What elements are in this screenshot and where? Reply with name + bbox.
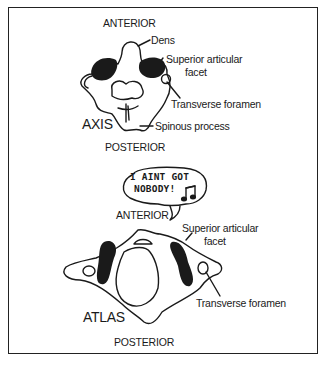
axis-transverse-foramen-label: Transverse foramen <box>171 98 261 110</box>
atlas-left-facet <box>97 241 116 284</box>
axis-superior-articular-facet-label-line2: facet <box>185 66 207 78</box>
atlas-right-facet <box>170 242 193 286</box>
axis-right-facet <box>139 58 165 79</box>
atlas-superior-articular-facet-label-line2: facet <box>204 235 226 247</box>
atlas-anterior-label: ANTERIOR <box>116 209 169 221</box>
atlas-posterior-label: POSTERIOR <box>114 336 174 348</box>
atlas-title: ATLAS <box>83 311 125 323</box>
axis-posterior-label: POSTERIOR <box>105 141 165 153</box>
atlas-superior-articular-facet-label-line1: Superior articular <box>182 222 258 234</box>
speech-bubble-line1: I AINT GOT <box>130 171 189 183</box>
speech-bubble-line2: NOBODY! <box>134 183 175 195</box>
axis-title: AXIS <box>82 118 113 130</box>
axis-dens-label: Dens <box>151 34 175 46</box>
axis-anterior-label: ANTERIOR <box>103 17 156 29</box>
axis-superior-articular-facet-label-line1: Superior articular <box>166 53 242 65</box>
axis-left-facet <box>91 58 117 80</box>
atlas-transverse-foramen-label: Transverse foramen <box>196 297 286 309</box>
axis-spinous-process-label: Spinous process <box>155 120 230 132</box>
